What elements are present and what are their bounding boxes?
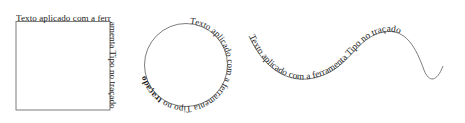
square-outline	[16, 22, 110, 111]
wave-path-text-content: Texto aplicado com a ferramenta Tipo no …	[247, 23, 403, 81]
circle-shape-group: Texto aplicado com a ferramenta Tipo no …	[138, 16, 236, 115]
type-on-path-illustration: Texto aplicado com a ferramenta Tipo no …	[0, 0, 465, 123]
square-shape-group: Texto aplicado com a ferramenta Tipo no …	[16, 13, 118, 110]
square-path-text: Texto aplicado com a ferramenta Tipo no …	[16, 13, 118, 109]
circle-path-text-bold: traçado	[138, 74, 164, 105]
square-path-text-content: Texto aplicado com a ferramenta Tipo no …	[16, 13, 118, 109]
circle-path-text: Texto aplicado com a ferramenta Tipo no …	[138, 16, 236, 115]
wave-shape-group: Texto aplicado com a ferramenta Tipo no …	[247, 23, 443, 81]
illustration-canvas: Texto aplicado com a ferramenta Tipo no …	[0, 0, 465, 123]
wave-path-text: Texto aplicado com a ferramenta Tipo no …	[247, 23, 403, 81]
circle-path-text-normal: Texto aplicado com a ferramenta Tipo no	[158, 16, 235, 115]
